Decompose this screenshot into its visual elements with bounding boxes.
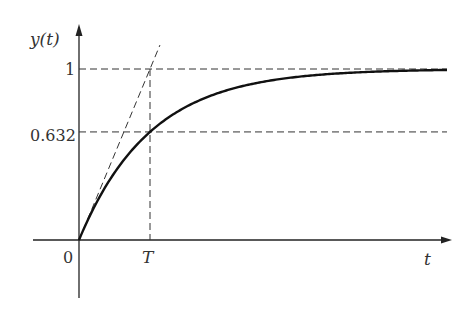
y-axis-label: y(t) (29, 29, 60, 49)
x-axis-label: t (424, 249, 431, 269)
x-axis-arrow (441, 237, 452, 244)
y-axis-arrow (76, 24, 83, 36)
response-curve (79, 70, 447, 240)
tick-label-T: T (142, 247, 155, 267)
step-response-plot: y(t) t 0 T 1 0.632 (0, 0, 476, 311)
tick-label-0632: 0.632 (30, 126, 76, 145)
tick-label-1: 1 (65, 60, 75, 79)
origin-label: 0 (63, 248, 73, 267)
